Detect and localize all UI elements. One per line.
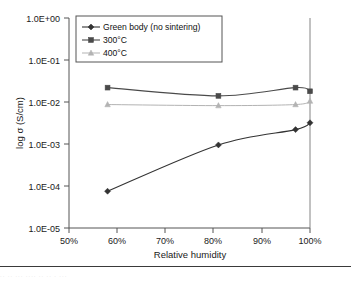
chart-legend: Green body (no sintering)300°C400°C	[76, 16, 222, 62]
x-axis-title: Relative humidity	[154, 249, 227, 260]
y-axis-title: log σ (S/cm)	[14, 97, 25, 149]
x-tick-label-90: 90%	[253, 236, 271, 246]
x-tick-label-100: 100%	[298, 236, 321, 246]
conductivity-vs-humidity-chart: 1.0E+00 1.0E-01 1.0E-02 1.0E-03 1.0E-04 …	[0, 0, 351, 281]
data-point-marker	[89, 38, 94, 43]
series-2	[105, 85, 312, 98]
caption-cropped-text: ·· ·· ··· ···· ·· ·· · ···	[0, 273, 351, 281]
series-3	[105, 98, 313, 108]
y-tick-label-1e-2: 1.0E-02	[28, 98, 60, 108]
data-series-layer	[105, 85, 313, 194]
legend-label: 300°C	[103, 35, 127, 45]
data-point-marker	[308, 89, 313, 94]
y-tick-label-1e-4: 1.0E-04	[28, 182, 60, 192]
x-tick-label-80: 80%	[204, 236, 222, 246]
y-axis-ticks: 1.0E+00 1.0E-01 1.0E-02 1.0E-03 1.0E-04 …	[26, 14, 69, 234]
data-point-marker	[293, 85, 298, 90]
y-tick-label-1e-3: 1.0E-03	[28, 140, 60, 150]
series-line	[108, 123, 310, 191]
y-tick-label-1e-1: 1.0E-01	[28, 56, 60, 66]
legend-label: 400°C	[103, 48, 127, 58]
data-point-marker	[216, 93, 221, 98]
series-1	[105, 120, 313, 194]
data-point-marker	[307, 98, 313, 103]
legend-label: Green body (no sintering)	[103, 22, 201, 32]
y-tick-label-1e-5: 1.0E-05	[28, 224, 60, 234]
y-tick-label-1e0: 1.0E+00	[26, 14, 60, 24]
series-line	[108, 101, 310, 106]
data-point-marker	[105, 85, 110, 90]
series-line	[108, 88, 310, 96]
data-point-marker	[293, 127, 299, 133]
x-tick-label-70: 70%	[156, 236, 174, 246]
data-point-marker	[105, 188, 111, 194]
figure-container: 1.0E+00 1.0E-01 1.0E-02 1.0E-03 1.0E-04 …	[0, 0, 351, 281]
x-tick-label-60: 60%	[108, 236, 126, 246]
data-point-marker	[215, 142, 221, 148]
caption-divider-rule	[0, 266, 351, 267]
x-axis-ticks: 50% 60% 70% 80% 90% 100%	[60, 228, 322, 246]
x-tick-label-50: 50%	[60, 236, 78, 246]
